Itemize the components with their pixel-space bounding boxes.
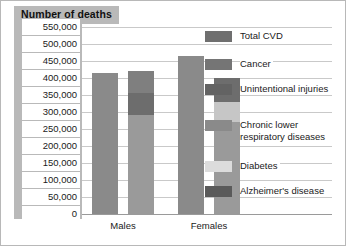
chart-page: Number of deaths 550,000500,000450,00040…	[0, 0, 346, 246]
legend-swatch	[205, 186, 232, 197]
legend-label: Chronic lower respiratory diseases	[240, 119, 343, 142]
legend-label: Cancer	[240, 58, 273, 70]
y-axis-tick-label: 550,000	[22, 19, 80, 35]
legend-item: Diabetes	[205, 160, 343, 172]
y-axis-tick-label: 300,000	[22, 104, 80, 120]
males-bar-1	[92, 73, 118, 214]
legend-label: Unintentional injuries	[240, 83, 330, 95]
legend-label: Alzheimer's disease	[240, 185, 326, 197]
legend-swatch	[205, 59, 232, 70]
legend-item: Total CVD	[205, 30, 343, 42]
x-axis-tick-label: Females	[169, 220, 249, 231]
females-bar-1	[178, 56, 204, 214]
y-axis-tick-label: 100,000	[22, 172, 80, 188]
bar-segment	[92, 73, 118, 214]
y-axis-tick-label: 500,000	[22, 36, 80, 52]
bar-segment	[128, 71, 154, 93]
y-axis-tick-label: 200,000	[22, 138, 80, 154]
legend-label: Total CVD	[240, 30, 285, 42]
bar-segment	[178, 56, 204, 214]
bar-segment	[128, 93, 154, 115]
y-axis-tick-label: 450,000	[22, 53, 80, 69]
y-axis-tick-label: 50,000	[22, 189, 80, 205]
gridline	[82, 27, 332, 28]
legend-swatch	[205, 84, 232, 95]
chart-legend: Total CVDCancerUnintentional injuriesChr…	[205, 30, 343, 216]
y-axis-tick-label: 400,000	[22, 70, 80, 86]
x-axis-tick-label: Males	[83, 220, 163, 231]
legend-item: Unintentional injuries	[205, 83, 343, 95]
legend-item: Cancer	[205, 58, 343, 70]
legend-swatch	[205, 120, 232, 131]
legend-swatch	[205, 31, 232, 42]
y-axis-tick-label: 0	[22, 206, 80, 222]
legend-item: Alzheimer's disease	[205, 185, 343, 197]
legend-swatch	[205, 161, 232, 172]
males-bar-2	[128, 71, 154, 214]
legend-label: Diabetes	[240, 160, 280, 172]
legend-item: Chronic lower respiratory diseases	[205, 119, 343, 142]
y-axis-tick-label: 350,000	[22, 87, 80, 103]
y-axis-tick-label: 150,000	[22, 155, 80, 171]
bar-segment	[128, 115, 154, 214]
y-axis-tick-label: 250,000	[22, 121, 80, 137]
